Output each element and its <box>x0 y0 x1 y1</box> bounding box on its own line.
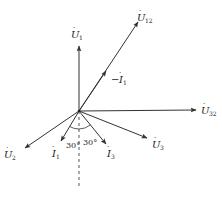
svg-text:32: 32 <box>209 110 217 117</box>
origin-point <box>78 110 81 113</box>
phasor-U32-arrow <box>79 110 196 111</box>
label-U2: U2 · <box>4 144 16 161</box>
svg-text:·: · <box>73 24 75 32</box>
angle-label-right: 30° <box>83 138 97 147</box>
svg-text:12: 12 <box>145 17 153 24</box>
svg-text:·: · <box>52 143 54 151</box>
svg-text:·: · <box>139 7 141 15</box>
phasor-minus-I1-arrow <box>79 71 106 111</box>
svg-text:·: · <box>119 69 121 77</box>
label-U32: U32 · <box>201 100 217 117</box>
svg-text:1: 1 <box>79 34 83 41</box>
svg-text:1: 1 <box>123 79 127 86</box>
label-U1: U1 · <box>71 24 83 41</box>
svg-text:2: 2 <box>12 154 16 161</box>
svg-text:·: · <box>203 100 205 108</box>
angle-label-left: 30° <box>66 141 80 150</box>
svg-text:·: · <box>154 134 156 142</box>
angle-arc-right <box>79 125 90 129</box>
label-I3: I3 · <box>106 143 115 160</box>
phasor-I1-arrow <box>61 111 79 141</box>
label-I1: I1 · <box>51 143 60 160</box>
phasor-U3-arrow <box>79 111 147 138</box>
svg-text:·: · <box>6 144 8 152</box>
svg-text:·: · <box>107 143 109 151</box>
svg-text:3: 3 <box>111 153 115 160</box>
angle-arc-left <box>70 127 79 130</box>
label-U3: U3 · <box>152 134 164 151</box>
phasor-diagram: U1 · U12 · U32 · U2 · U3 · I1 · I3 · − I… <box>0 0 222 198</box>
svg-text:1: 1 <box>56 153 60 160</box>
label-U12: U12 · <box>137 7 153 24</box>
svg-text:3: 3 <box>160 144 164 151</box>
label-minus-I1: − I1 · <box>111 69 127 86</box>
